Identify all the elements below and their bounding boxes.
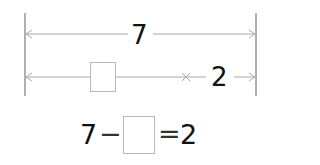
equation-minus-sign: − [99, 120, 122, 147]
equation-minuend: 7 [80, 121, 97, 148]
total-label: 7 [131, 22, 148, 48]
equation-equals-sign: = [158, 120, 181, 147]
equation-result: 2 [180, 121, 197, 148]
equation-answer-box[interactable] [123, 116, 155, 154]
diagram-unknown-box[interactable] [90, 62, 116, 92]
known-part-label: 2 [211, 64, 228, 90]
